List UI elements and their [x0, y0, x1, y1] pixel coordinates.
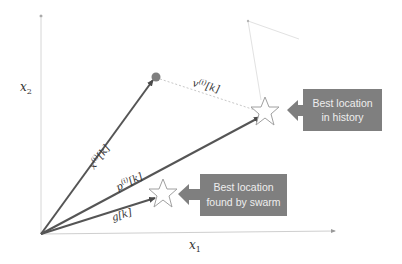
history-star-icon: [251, 97, 279, 125]
callout-history: Best location in history: [287, 89, 382, 131]
faint-point-icon: [247, 20, 249, 22]
callout-swarm: Best location found by swarm: [178, 174, 287, 216]
callout-history-box: [303, 89, 382, 131]
swarm-star-icon: [149, 179, 177, 207]
position-vector-label: x(i)[k]: [86, 142, 112, 171]
callout-swarm-line1: Best location: [213, 181, 273, 193]
global-best-vector-label: g[k]: [110, 206, 133, 222]
particle-dot-icon: [152, 73, 161, 82]
personal-best-vector-label: p(i)[k]: [114, 170, 144, 193]
x-axis-label: x1: [189, 238, 201, 254]
callout-history-line2: in history: [321, 111, 364, 123]
callout-history-arrow-icon: [287, 100, 304, 121]
x-axis: [41, 231, 335, 234]
velocity-label: v(i)[k]: [192, 76, 221, 94]
y-axis-label: x2: [20, 80, 32, 96]
faint-history-path: [248, 21, 299, 100]
diagram-canvas: x2 x1 v(i)[k] x(i)[k] p(i)[k] g[k] Best …: [0, 0, 402, 264]
callout-swarm-line2: found by swarm: [206, 196, 280, 208]
callout-history-line1: Best location: [312, 97, 372, 109]
y-axis-arrow-icon: [40, 15, 43, 18]
callout-swarm-arrow-icon: [178, 184, 201, 205]
pso-diagram: x2 x1 v(i)[k] x(i)[k] p(i)[k] g[k] Best …: [0, 0, 402, 264]
